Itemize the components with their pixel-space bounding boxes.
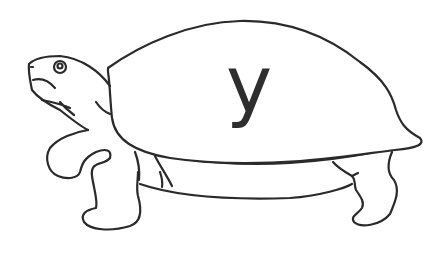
turtle-front-leg	[83, 158, 141, 229]
turtle-illustration: y	[0, 0, 445, 254]
shell-letter: y	[226, 46, 270, 146]
turtle-rear-leg-claw	[352, 173, 358, 176]
turtle-neck-fold	[96, 102, 110, 114]
turtle-skin-fold	[155, 156, 172, 187]
turtle-head	[29, 56, 110, 130]
turtle-mouth	[33, 79, 55, 88]
turtle-pupil	[58, 64, 63, 69]
turtle-front-leg-raised	[47, 130, 110, 178]
